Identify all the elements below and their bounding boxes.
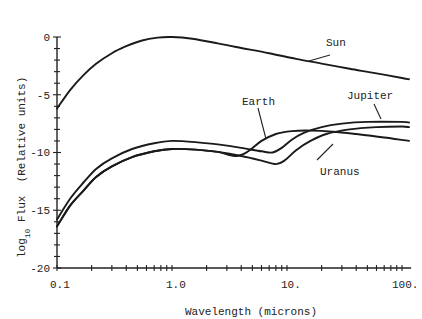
series-line-earth bbox=[57, 131, 409, 227]
x-tick-labels: 0.1 1.0 10. 100. bbox=[50, 279, 418, 291]
sun-leader-line bbox=[309, 55, 330, 61]
series-label-uranus: Uranus bbox=[320, 166, 360, 178]
jupiter-leader-line bbox=[374, 104, 381, 119]
x-axis-label: Wavelength (microns) bbox=[185, 306, 317, 318]
y-tick-label: -5 bbox=[37, 90, 50, 102]
x-tick-label: 10. bbox=[281, 279, 301, 291]
x-tick-label: 1.0 bbox=[166, 279, 186, 291]
y-axis-label-subscript: 10 bbox=[23, 228, 32, 238]
x-tick-label: 100. bbox=[392, 279, 418, 291]
series-labels: Sun Jupiter Earth Uranus bbox=[242, 37, 393, 178]
y-tick-label: -10 bbox=[30, 147, 50, 159]
series-label-earth: Earth bbox=[242, 96, 275, 108]
y-tick-label: 0 bbox=[43, 32, 50, 44]
y-axis-label-rest: Flux (Relative units) bbox=[16, 77, 28, 229]
y-tick-labels: 0 -5 -10 -15 -20 bbox=[30, 32, 50, 275]
earth-leader-line bbox=[258, 108, 266, 139]
flux-chart: 0 -5 -10 -15 -20 0.1 1.0 10. 100. Wavele… bbox=[0, 0, 422, 319]
series-label-sun: Sun bbox=[326, 37, 346, 49]
series-label-jupiter: Jupiter bbox=[347, 90, 393, 102]
y-ticks bbox=[53, 37, 61, 268]
x-tick-label: 0.1 bbox=[50, 279, 70, 291]
svg-text:log10 Flux (Relative units): log10 Flux (Relative units) bbox=[16, 77, 32, 258]
curves bbox=[57, 37, 409, 226]
y-axis-label-log: log bbox=[16, 238, 28, 258]
y-tick-label: -15 bbox=[30, 205, 50, 217]
uranus-leader-line bbox=[317, 144, 333, 160]
y-tick-label: -20 bbox=[30, 263, 50, 275]
y-axis-label: log10 Flux (Relative units) bbox=[16, 77, 32, 258]
